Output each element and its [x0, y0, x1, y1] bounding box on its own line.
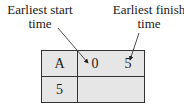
arrows [0, 0, 184, 108]
earliest-start-arrow-icon [58, 28, 88, 63]
earliest-finish-arrow-icon [130, 33, 139, 60]
